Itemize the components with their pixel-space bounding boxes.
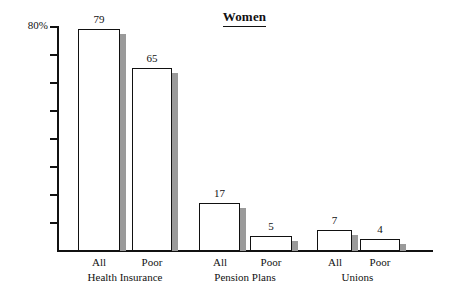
y-tick-80 [50, 26, 58, 28]
y-tick-70 [50, 54, 58, 56]
bar-value-6: 4 [360, 223, 400, 235]
bar-value-2: 65 [132, 52, 172, 64]
y-tick-20 [50, 194, 58, 196]
bar-value-4: 5 [250, 220, 292, 232]
chart-title-text: Women [223, 9, 267, 27]
cat-label-pension-poor: Poor [246, 256, 296, 268]
bar-unions-poor[interactable] [360, 239, 400, 251]
y-tick-60 [50, 82, 58, 84]
chart-title: Women [0, 9, 451, 27]
bar-pension-all[interactable] [199, 203, 240, 251]
bar-unions-all[interactable] [317, 230, 352, 251]
cat-label-pension-all: All [195, 256, 245, 268]
cat-label-unions-poor: Poor [355, 256, 405, 268]
group-label-health-insurance: Health Insurance [65, 271, 185, 283]
group-label-pension-plans: Pension Plans [190, 271, 300, 283]
bar-value-3: 17 [199, 187, 240, 199]
bar-value-5: 7 [317, 214, 352, 226]
y-tick-30 [50, 166, 58, 168]
y-tick-40 [50, 138, 58, 140]
cat-label-health-all: All [74, 256, 124, 268]
bar-health-poor[interactable] [132, 68, 172, 251]
bar-chart: Women 80% 79 65 17 5 7 4 All Poor All Po… [0, 0, 451, 298]
y-axis-top-label: 80% [12, 19, 48, 31]
bar-value-1: 79 [78, 13, 120, 25]
cat-label-health-poor: Poor [127, 256, 177, 268]
group-label-unions: Unions [305, 271, 410, 283]
bar-health-all[interactable] [78, 29, 120, 251]
cat-label-unions-all: All [310, 256, 360, 268]
y-tick-50 [50, 110, 58, 112]
y-tick-10 [50, 222, 58, 224]
bar-pension-poor[interactable] [250, 236, 292, 251]
